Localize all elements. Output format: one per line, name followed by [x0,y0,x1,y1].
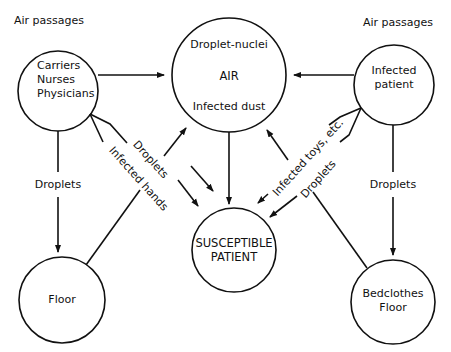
susceptible-patient-label: PATIENT [211,250,257,264]
floor-label: Floor [48,293,75,307]
carriers-label: Carriers [37,59,80,73]
air-label: AIR [219,69,238,83]
bedclothes-label: Bedclothes [363,287,424,301]
bedclothes-floor-label: Floor [379,301,406,315]
carriers-air-passages-label: Air passages [14,14,84,28]
droplet-nuclei-label: Droplet-nuclei [190,38,267,52]
infected-dust-label: Infected dust [193,100,265,114]
patient-label: patient [374,78,413,92]
infected-label: Infected [372,64,417,78]
susceptible-label: SUSCEPTIBLE [195,236,272,250]
nurses-label: Nurses [37,73,75,87]
patient-air-passages-label: Air passages [363,16,433,30]
left-droplets-edge-label: Droplets [35,178,81,192]
right-droplets-edge-label: Droplets [370,178,416,192]
physicians-label: Physicians [37,87,94,101]
